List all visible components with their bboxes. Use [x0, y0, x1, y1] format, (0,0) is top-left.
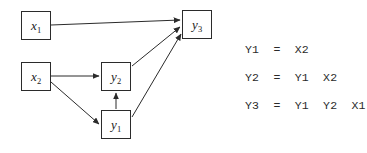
node-y3-subscript: 3 — [198, 24, 202, 34]
equation-line-1: Y1 = X2 — [245, 36, 367, 64]
node-x1-subscript: 1 — [37, 25, 41, 35]
node-x2-label: x2 — [31, 70, 41, 83]
edge-x2-to-y1 — [51, 82, 99, 124]
node-y2: y2 — [101, 62, 131, 91]
node-y1-subscript: 1 — [117, 124, 121, 134]
diagram-canvas: x1 x2 y2 y1 y3 Y1 = X2 Y2 = Y1 X2 Y3 = Y… — [0, 0, 367, 153]
edge-x1-to-y3 — [51, 20, 180, 25]
node-y3: y3 — [182, 10, 212, 39]
node-y2-base: y — [111, 69, 117, 84]
equation-line-3: Y3 = Y1 Y2 X1 — [245, 92, 367, 120]
node-x2: x2 — [21, 62, 51, 91]
node-x2-base: x — [31, 69, 37, 84]
node-x2-subscript: 2 — [37, 76, 41, 86]
node-y3-label: y3 — [192, 18, 202, 31]
node-x1-label: x1 — [31, 19, 41, 32]
node-x1: x1 — [21, 11, 51, 40]
equations-block: Y1 = X2 Y2 = Y1 X2 Y3 = Y1 Y2 X1 — [245, 36, 367, 120]
edge-y2-to-y3 — [132, 27, 180, 66]
equation-line-2: Y2 = Y1 X2 — [245, 64, 367, 92]
node-y3-base: y — [192, 17, 198, 32]
node-y1-label: y1 — [111, 118, 121, 131]
node-y2-label: y2 — [111, 70, 121, 83]
node-y2-subscript: 2 — [117, 76, 121, 86]
node-y1: y1 — [101, 110, 131, 139]
node-y1-base: y — [111, 117, 117, 132]
node-x1-base: x — [31, 18, 37, 33]
